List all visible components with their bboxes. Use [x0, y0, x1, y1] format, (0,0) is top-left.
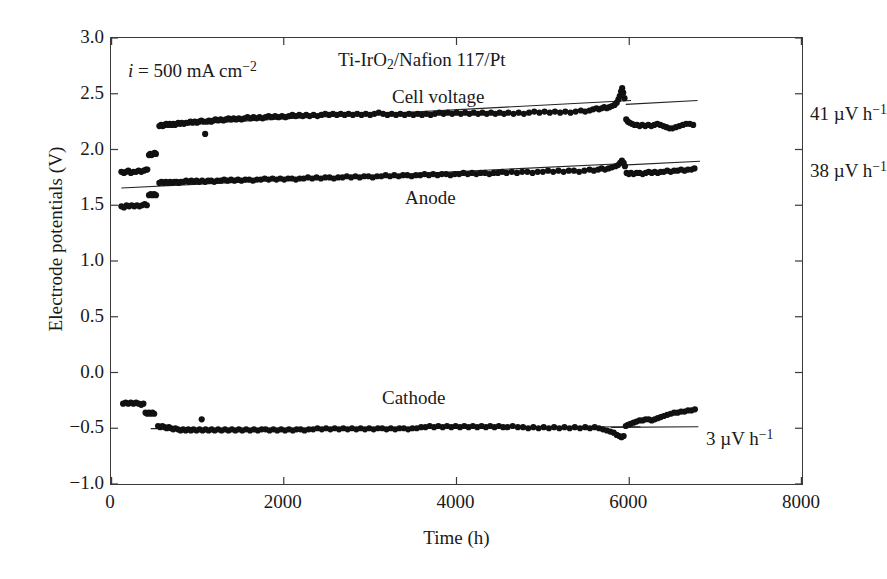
annotation-current-density: i = 500 mA cm−2 — [128, 60, 257, 80]
data-point — [526, 110, 532, 116]
x-tick-label: 4000 — [411, 492, 501, 511]
data-point — [516, 110, 522, 116]
data-point — [541, 424, 547, 430]
trend-line — [622, 161, 700, 165]
data-point — [505, 110, 511, 116]
series-label-cathode: Cathode — [382, 388, 445, 407]
data-point — [536, 110, 542, 116]
data-point — [550, 169, 556, 175]
y-tick-label: 0.0 — [44, 362, 104, 381]
data-point — [690, 122, 696, 128]
data-point — [692, 406, 698, 412]
data-point — [153, 151, 159, 157]
data-point — [551, 424, 557, 430]
data-point — [140, 401, 146, 407]
x-tick-label: 6000 — [583, 492, 673, 511]
data-point — [691, 165, 697, 171]
annotation-cell-voltage-rate: 41 µV h−1 — [810, 103, 887, 123]
data-point — [520, 424, 526, 430]
y-tick-label: 1.0 — [44, 250, 104, 269]
series-label-anode: Anode — [405, 188, 456, 207]
data-point — [545, 168, 551, 174]
data-point — [540, 169, 546, 175]
data-point — [504, 424, 510, 430]
data-point — [567, 110, 573, 116]
data-point — [510, 423, 516, 429]
y-tick-label: 2.0 — [44, 139, 104, 158]
data-point — [503, 170, 509, 176]
data-point — [514, 170, 520, 176]
annotation-anode-rate: 38 µV h−1 — [810, 160, 887, 180]
data-point — [621, 95, 627, 101]
data-point — [552, 108, 558, 114]
data-point — [561, 424, 567, 430]
x-tick-label: 0 — [65, 492, 155, 511]
data-point — [542, 108, 548, 114]
y-tick-label: 2.5 — [44, 83, 104, 102]
data-point — [557, 110, 563, 116]
data-point — [531, 108, 537, 114]
annotation-cathode-rate: 3 µV h−1 — [706, 428, 773, 448]
data-point — [573, 108, 579, 114]
data-point — [525, 425, 531, 431]
chart-title: Ti-IrO2/Nafion 117/Pt — [338, 50, 505, 72]
trend-line — [626, 100, 698, 104]
data-point — [547, 110, 553, 116]
data-point — [572, 424, 578, 430]
data-point — [144, 166, 150, 172]
data-point — [535, 425, 541, 431]
data-point — [577, 425, 583, 431]
x-tick-label: 2000 — [238, 492, 328, 511]
data-point — [199, 416, 205, 422]
data-point — [562, 108, 568, 114]
data-point — [555, 168, 561, 174]
y-tick-label: −1.0 — [44, 473, 104, 492]
data-point — [144, 202, 150, 208]
data-point — [521, 111, 527, 117]
data-point — [153, 192, 159, 198]
data-point — [202, 131, 208, 137]
data-point — [556, 425, 562, 431]
data-point — [546, 425, 552, 431]
y-tick-label: 3.0 — [44, 27, 104, 46]
y-tick-label: 1.5 — [44, 194, 104, 213]
data-point — [571, 168, 577, 174]
data-point — [524, 169, 530, 175]
data-point — [151, 411, 157, 417]
data-point — [622, 163, 628, 169]
data-point — [620, 90, 626, 96]
data-point — [509, 169, 515, 175]
x-axis-title: Time (h) — [110, 527, 803, 549]
data-point — [530, 424, 536, 430]
data-point — [576, 169, 582, 175]
series-label-cell-voltage: Cell voltage — [392, 87, 484, 106]
data-point — [561, 169, 567, 175]
y-tick-label: 0.5 — [44, 306, 104, 325]
data-point — [567, 425, 573, 431]
x-tick-label: 8000 — [756, 492, 846, 511]
y-tick-label: −0.5 — [44, 417, 104, 436]
data-point — [529, 170, 535, 176]
data-point — [581, 168, 587, 174]
data-point — [621, 433, 627, 439]
data-point — [510, 111, 516, 117]
